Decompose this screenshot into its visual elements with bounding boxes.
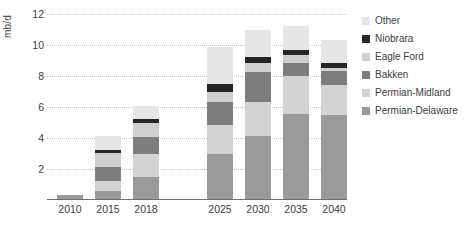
y-tick-label: 12 — [18, 9, 44, 19]
legend-item-niobrara[interactable]: Niobrara — [362, 30, 466, 48]
legend-swatch-icon — [362, 71, 370, 79]
legend-swatch-icon — [362, 107, 370, 115]
x-tick-label-2015: 2015 — [88, 203, 128, 215]
legend-swatch-icon — [362, 17, 370, 25]
x-tick-label-2030: 2030 — [238, 203, 278, 215]
bar-segment-other — [95, 136, 121, 150]
bar-segment-permian-delaware — [245, 136, 271, 200]
bar-segment-other — [245, 30, 271, 56]
bar-segment-bakken — [321, 71, 347, 86]
x-tick-label-2018: 2018 — [126, 203, 166, 215]
y-tick-label: 4 — [18, 133, 44, 143]
bar-segment-bakken — [245, 72, 271, 102]
y-tick-label: 8 — [18, 71, 44, 81]
bar-segment-permian-midland — [133, 154, 159, 176]
bar-2015 — [95, 136, 121, 200]
legend-item-other[interactable]: Other — [362, 12, 466, 30]
bar-2040 — [321, 40, 347, 200]
x-tick-label-2040: 2040 — [314, 203, 354, 215]
bar-segment-permian-midland — [207, 125, 233, 154]
stacked-bar-chart: mb/d 24681012 20102015201820252030203520… — [0, 0, 468, 235]
legend-label: Niobrara — [375, 34, 413, 44]
legend-swatch-icon — [362, 35, 370, 43]
legend: OtherNiobraraEagle FordBakkenPermian-Mid… — [362, 12, 466, 120]
bar-segment-permian-delaware — [207, 154, 233, 201]
bar-segment-other — [133, 106, 159, 119]
legend-item-eagle-ford[interactable]: Eagle Ford — [362, 48, 466, 66]
bar-segment-permian-delaware — [321, 115, 347, 200]
legend-swatch-icon — [362, 53, 370, 61]
x-tick-label-2025: 2025 — [200, 203, 240, 215]
legend-swatch-icon — [362, 89, 370, 97]
bar-2035 — [283, 26, 309, 200]
legend-label: Eagle Ford — [375, 52, 424, 62]
bar-2025 — [207, 47, 233, 200]
bar-segment-eagle-ford — [95, 153, 121, 167]
bar-segment-bakken — [283, 63, 309, 76]
bar-segment-permian-midland — [95, 181, 121, 191]
bar-segment-bakken — [95, 167, 121, 182]
bar-segment-permian-midland — [283, 76, 309, 114]
y-tick-label: 2 — [18, 164, 44, 174]
x-tick-label-2035: 2035 — [276, 203, 316, 215]
legend-item-permian-delaware[interactable]: Permian-Delaware — [362, 102, 466, 120]
x-axis-line — [47, 199, 347, 200]
bar-segment-niobrara — [207, 84, 233, 93]
bar-2018 — [133, 106, 159, 200]
plot-area — [47, 14, 347, 200]
legend-label: Permian-Midland — [375, 88, 451, 98]
bar-segment-bakken — [133, 137, 159, 154]
bar-segment-permian-midland — [321, 85, 347, 114]
bar-segment-other — [283, 26, 309, 50]
bar-segment-eagle-ford — [283, 55, 309, 63]
bar-segment-permian-delaware — [283, 114, 309, 200]
bar-segment-other — [321, 40, 347, 62]
bar-segment-bakken — [207, 102, 233, 124]
bar-segment-eagle-ford — [133, 123, 159, 137]
x-axis-labels: 2010201520182025203020352040 — [47, 203, 347, 223]
y-tick-label: 6 — [18, 102, 44, 112]
y-tick-label: 10 — [18, 40, 44, 50]
bar-segment-permian-delaware — [133, 177, 159, 200]
bar-segment-permian-midland — [245, 102, 271, 136]
bar-group — [47, 14, 347, 200]
bar-2030 — [245, 30, 271, 200]
legend-item-bakken[interactable]: Bakken — [362, 66, 466, 84]
legend-item-permian-midland[interactable]: Permian-Midland — [362, 84, 466, 102]
bar-segment-other — [207, 47, 233, 84]
legend-label: Bakken — [375, 70, 408, 80]
legend-label: Permian-Delaware — [375, 106, 458, 116]
bar-segment-eagle-ford — [245, 63, 271, 72]
bar-segment-eagle-ford — [207, 92, 233, 102]
y-axis-ticks: 24681012 — [0, 0, 44, 235]
x-tick-label-2010: 2010 — [50, 203, 90, 215]
legend-label: Other — [375, 16, 400, 26]
